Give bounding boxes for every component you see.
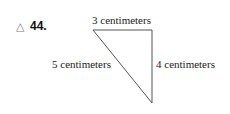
top-side-label: 3 centimeters bbox=[92, 14, 151, 26]
right-side-label: 4 centimeters bbox=[156, 58, 215, 70]
hypotenuse-label: 5 centimeters bbox=[52, 58, 111, 70]
